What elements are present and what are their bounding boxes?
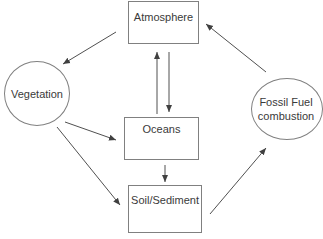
node-fossil-label-line1: Fossil Fuel — [258, 95, 314, 109]
node-vegetation: Vegetation — [4, 61, 70, 126]
edge-vegetation-to-oceans — [65, 122, 116, 140]
node-oceans-label: Oceans — [143, 123, 181, 135]
node-fossil-fuel-combustion: Fossil Fuel combustion — [251, 78, 323, 140]
edge-fossil-to-atmosphere — [206, 24, 266, 72]
edge-vegetation-to-soil — [57, 127, 120, 205]
edge-soil-to-fossil — [210, 148, 266, 214]
node-oceans: Oceans — [124, 117, 199, 160]
node-atmosphere: Atmosphere — [128, 1, 199, 44]
node-soil-sediment: Soil/Sediment — [128, 185, 202, 233]
node-vegetation-label: Vegetation — [11, 87, 63, 101]
node-soil-sediment-label: Soil/Sediment — [131, 194, 199, 206]
node-fossil-label-line2: combustion — [258, 109, 314, 123]
edge-atmosphere-to-vegetation — [63, 32, 116, 64]
node-atmosphere-label: Atmosphere — [134, 11, 193, 23]
